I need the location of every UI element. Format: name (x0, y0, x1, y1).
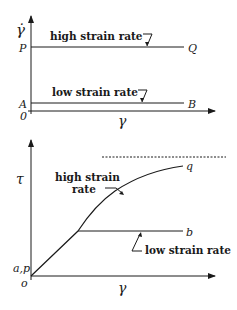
label-B: B (187, 98, 196, 111)
label-Q: Q (188, 42, 197, 55)
label-b: b (186, 226, 193, 239)
top-y-axis-label: γ̇ (16, 21, 25, 39)
label-q: q (186, 160, 193, 173)
high-rate-annotation: high strain rate (50, 30, 143, 42)
bottom-x-axis-label: γ (118, 280, 127, 296)
high-curve-annotation-line2: rate (72, 183, 96, 195)
bottom-origin-label: o (21, 277, 28, 290)
high-curve-annotation-line1: high strain (55, 171, 120, 183)
label-a-p: a,p (13, 262, 30, 275)
top-plot: γ̇ high strain rate P Q low strain rate … (16, 16, 215, 129)
bottom-y-axis-label: τ (16, 171, 24, 187)
bottom-plot: τ high strain rate q b low strain rate a… (13, 140, 231, 296)
low-line-annotation: low strain rate (145, 244, 231, 256)
top-x-axis-label: γ (118, 113, 127, 129)
low-rate-annotation: low strain rate (52, 86, 138, 98)
label-P: P (18, 42, 27, 55)
top-origin-label: 0 (20, 110, 27, 123)
strain-rate-diagram: γ̇ high strain rate P Q low strain rate … (0, 0, 237, 310)
